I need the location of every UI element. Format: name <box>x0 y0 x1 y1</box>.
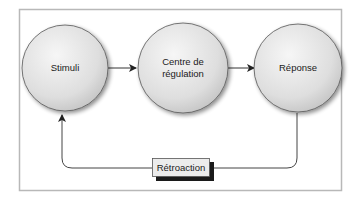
diagram-canvas: Stimuli Centre de régulation Réponse Rét… <box>0 0 352 197</box>
node-stimuli-label: Stimuli <box>51 62 80 73</box>
feedback-label: Rétroaction <box>157 162 206 173</box>
node-reponse-label: Réponse <box>279 62 317 73</box>
node-centre-label-line1: Centre de <box>162 56 204 67</box>
node-centre-label-line2: régulation <box>162 68 204 79</box>
